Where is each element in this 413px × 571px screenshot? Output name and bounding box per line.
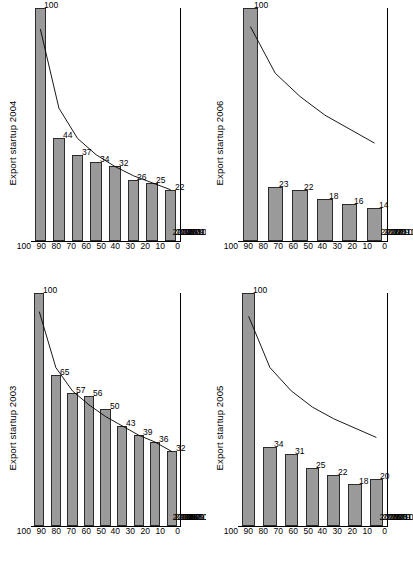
bar-row: 34: [259, 293, 280, 526]
value-tick-label: 100: [17, 526, 31, 536]
value-tick-label: 80: [258, 241, 267, 251]
bar: [366, 208, 381, 241]
bar-row: 18: [344, 293, 365, 526]
category-tick-label: 2010: [401, 8, 404, 241]
value-tick-label: 30: [332, 241, 341, 251]
bar-row: 26: [124, 8, 143, 241]
value-tick-label: 40: [317, 241, 326, 251]
bar: [267, 187, 282, 241]
value-tick-label: 70: [273, 526, 282, 536]
value-tick-label: 0: [382, 241, 387, 251]
value-tick-label: 10: [156, 241, 165, 251]
category-tick-label: 2008: [394, 8, 397, 241]
value-tick-label: 20: [141, 526, 150, 536]
bar-row: 100: [31, 8, 50, 241]
bar: [305, 468, 318, 526]
bar-row: 50: [97, 293, 114, 526]
value-tick-label: 100: [223, 241, 237, 251]
bar-row: 43: [114, 293, 131, 526]
chart-grid: Export startup 2004 10090807060504030201…: [0, 0, 413, 571]
bar-row: 65: [48, 293, 65, 526]
value-tick-labels-3: 1009080706050403020100: [238, 529, 387, 567]
bar-row: 56: [81, 293, 98, 526]
bar: [263, 447, 276, 526]
chart-panel-2: Export startup 2003 10090807060504030201…: [0, 285, 206, 571]
bar: [292, 189, 307, 240]
bar: [53, 138, 65, 241]
value-tick-label: 60: [81, 526, 90, 536]
chart-panel-3: Export startup 2005 10090807060504030201…: [206, 285, 413, 571]
bar-row: 100: [238, 293, 259, 526]
bar-row: 25: [301, 293, 322, 526]
bar-row: 34: [87, 8, 106, 241]
bar: [317, 199, 332, 241]
category-tick-label: 2011: [199, 293, 201, 526]
bar-row: 39: [130, 293, 147, 526]
bar-series-1: 1002322181614: [238, 8, 387, 241]
value-tick-label: 60: [288, 526, 297, 536]
bar-row: 100: [31, 293, 48, 526]
value-tick-label: 30: [332, 526, 341, 536]
chart-title-1: Export startup 2006: [214, 4, 225, 282]
bar-row: 36: [147, 293, 164, 526]
value-tick-label: 30: [126, 241, 135, 251]
value-tick-labels-2: 1009080706050403020100: [31, 529, 180, 567]
bar-series-0: 10044373432262522: [31, 8, 180, 241]
value-tick-label: 0: [175, 526, 180, 536]
value-tick-label: 50: [303, 526, 312, 536]
value-tick-labels-1: 1009080706050403020100: [238, 244, 387, 282]
bar-row: 20: [365, 293, 386, 526]
value-tick-label: 20: [347, 241, 356, 251]
bar-row: 32: [164, 293, 181, 526]
value-tick-label: 100: [223, 526, 237, 536]
value-tick-label: 80: [51, 241, 60, 251]
bar: [134, 435, 144, 526]
category-tick-label: 2009: [397, 8, 400, 241]
value-tick-label: 90: [243, 241, 252, 251]
value-tick-label: 50: [303, 241, 312, 251]
category-tick-labels-0: 20042005200620072008200920102011: [181, 8, 201, 241]
category-tick-label: 2007: [391, 8, 394, 241]
value-tick-label: 70: [273, 241, 282, 251]
bar-row: 22: [161, 8, 180, 241]
bar-series-3: 100343125221820: [238, 293, 387, 526]
bar: [84, 396, 94, 526]
value-tick-label: 20: [347, 526, 356, 536]
bar-row: 16: [337, 8, 362, 241]
bar: [150, 442, 160, 526]
value-tick-label: 50: [96, 526, 105, 536]
bar-row: 25: [143, 8, 162, 241]
bar-row: 14: [362, 8, 387, 241]
chart-title-0: Export startup 2004: [7, 4, 18, 282]
value-tick-label: 10: [362, 241, 371, 251]
bar-row: 100: [238, 8, 263, 241]
bar: [242, 8, 257, 241]
value-tick-label: 40: [317, 526, 326, 536]
value-tick-label: 40: [111, 526, 120, 536]
value-tick-label: 90: [36, 526, 45, 536]
bar: [67, 393, 77, 526]
bar: [51, 375, 61, 526]
value-tick-label: 100: [17, 241, 31, 251]
category-tick-labels-1: 200620072008200920102011: [388, 8, 408, 241]
value-tick-label: 90: [36, 241, 45, 251]
category-tick-labels-2: 200320042005200620072008200920102011: [181, 293, 201, 526]
value-tick-label: 40: [111, 241, 120, 251]
value-tick-label: 60: [81, 241, 90, 251]
bar-series-2: 1006557565043393632: [31, 293, 180, 526]
value-tick-label: 70: [66, 526, 75, 536]
chart-panel-0: Export startup 2004 10090807060504030201…: [0, 0, 206, 285]
bar-row: 31: [280, 293, 301, 526]
bar-row: 32: [106, 8, 125, 241]
value-tick-label: 10: [362, 526, 371, 536]
bar: [34, 293, 44, 526]
bar-row: 18: [312, 8, 337, 241]
bar: [72, 154, 84, 240]
value-tick-label: 80: [258, 526, 267, 536]
bar-row: 22: [287, 8, 312, 241]
bar: [327, 475, 340, 526]
bar: [109, 166, 121, 241]
bar-row: 44: [50, 8, 69, 241]
bar: [128, 180, 140, 241]
category-tick-label: 2011: [404, 8, 407, 241]
